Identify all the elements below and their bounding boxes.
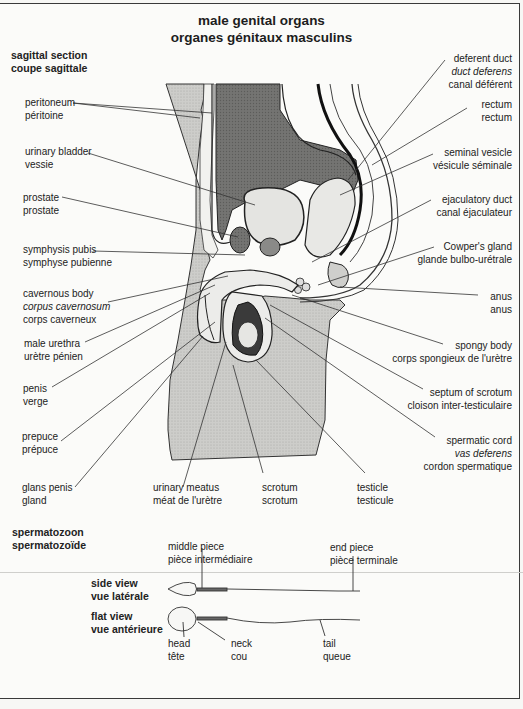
label-middle-piece: middle piecepièce intermédiaire: [168, 540, 253, 566]
label-tail: tailqueue: [323, 637, 351, 663]
label-urinary-bladder: urinary bladdervessie: [25, 145, 92, 171]
label-spongy-body: spongy bodycorps spongieux de l'urètre: [392, 339, 512, 365]
bladder: [244, 188, 304, 246]
label-deferent-duct: deferent ductduct deferenscanal déférent: [449, 52, 512, 91]
label-urinary-meatus: urinary meatusméat de l'urètre: [153, 481, 222, 507]
label-symphysis-pubis: symphysis pubissymphyse pubienne: [23, 243, 112, 269]
label-rectum: rectumrectum: [481, 98, 512, 124]
label-glans-penis: glans penisgland: [22, 481, 73, 507]
label-testicle: testicletesticule: [357, 481, 394, 507]
label-scrotum: scrotumscrotum: [262, 481, 298, 507]
spermatozoon-flat-view: [168, 607, 360, 640]
label-prostate: prostateprostate: [23, 191, 59, 217]
label-seminal-vesicle: seminal vesiclevésicule séminale: [433, 146, 512, 172]
label-anus: anusanus: [490, 290, 512, 316]
diagram-title-en: male genital organs: [0, 12, 523, 29]
label-peritoneum: peritoneumpéritoine: [25, 96, 75, 122]
label-cowpers-gland: Cowper's glandglande bulbo-urétrale: [417, 240, 512, 266]
prostate: [230, 227, 250, 253]
label-flat-view: flat viewvue antérieure: [91, 610, 163, 636]
label-neck: neckcou: [231, 637, 252, 663]
label-prepuce: prepuceprépuce: [22, 430, 58, 456]
label-male-urethra: male urethraurètre pénien: [24, 337, 83, 363]
label-ejaculatory-duct: ejaculatory ductcanal éjaculateur: [436, 193, 512, 219]
label-spermatic-cord: spermatic cordvas deferenscordon spermat…: [424, 434, 512, 473]
label-end-piece: end piecepièce terminale: [330, 541, 398, 567]
label-penis: penisverge: [23, 382, 48, 408]
sagittal-section-heading: sagittal section coupe sagittale: [11, 49, 87, 75]
spermatozoon-heading: spermatozoonspermatozoïde: [12, 526, 86, 552]
diagram-title-fr: organes génitaux masculins: [0, 29, 523, 46]
label-septum-of-scrotum: septum of scrotumcloison inter-testicula…: [408, 386, 513, 412]
label-side-view: side viewvue latérale: [91, 577, 149, 603]
label-head: headtête: [168, 637, 190, 663]
label-cavernous-body: cavernous bodycorpus cavernosumcorps cav…: [23, 287, 110, 326]
